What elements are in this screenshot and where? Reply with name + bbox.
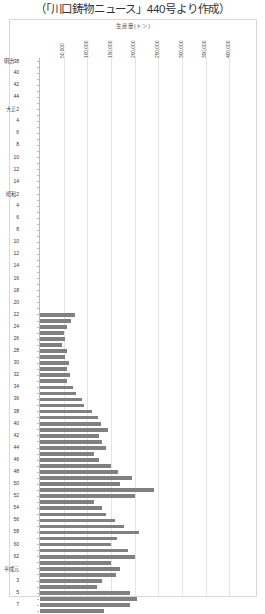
y-tick-label: 12	[0, 250, 19, 256]
y-tick-label: 8	[0, 226, 19, 232]
y-tick-label: 平成元	[0, 565, 19, 572]
y-tick-label: 54	[0, 504, 19, 510]
bar	[40, 452, 94, 456]
bar	[40, 446, 106, 450]
bar	[40, 567, 120, 571]
y-tick-mark	[37, 587, 39, 588]
bar	[40, 579, 102, 583]
y-tick-label: 34	[0, 383, 19, 389]
y-tick-mark	[37, 121, 39, 122]
y-tick-mark	[37, 363, 39, 364]
y-tick-mark	[37, 187, 39, 188]
y-tick-label: 8	[0, 141, 19, 147]
bar	[40, 500, 94, 504]
y-tick-mark	[37, 345, 39, 346]
y-tick-mark	[37, 200, 39, 201]
bar	[40, 319, 71, 323]
bar	[40, 513, 106, 517]
y-tick-mark	[37, 496, 39, 497]
y-tick-mark	[37, 544, 39, 545]
x-tick-label: 300,000	[178, 41, 184, 58]
y-tick-mark	[37, 133, 39, 134]
y-tick-mark	[37, 175, 39, 176]
y-tick-mark	[37, 296, 39, 297]
bar	[40, 458, 99, 462]
y-tick-mark	[37, 97, 39, 98]
bar	[40, 488, 154, 492]
bar	[40, 519, 115, 523]
y-tick-mark	[37, 85, 39, 86]
y-tick-mark	[37, 611, 39, 612]
x-tick-label: 100,000	[83, 41, 89, 58]
bar	[40, 367, 67, 371]
y-tick-mark	[37, 423, 39, 424]
y-tick-mark	[37, 103, 39, 104]
bar	[40, 331, 64, 335]
y-tick-mark	[37, 502, 39, 503]
y-tick-mark	[37, 562, 39, 563]
y-tick-mark	[37, 290, 39, 291]
y-tick-mark	[37, 381, 39, 382]
x-axis-title: 生産量(トン)	[10, 22, 256, 30]
y-tick-mark	[37, 429, 39, 430]
bar	[40, 470, 118, 474]
y-tick-mark	[37, 109, 39, 110]
y-tick-mark	[37, 532, 39, 533]
y-tick-mark	[37, 230, 39, 231]
y-tick-mark	[37, 339, 39, 340]
y-tick-mark	[37, 466, 39, 467]
y-tick-mark	[37, 514, 39, 515]
bar	[40, 440, 102, 444]
bar-rows: 明治38404244大正2468101214昭和2468101214161820…	[10, 58, 256, 596]
bar	[40, 525, 124, 529]
y-tick-mark	[37, 405, 39, 406]
bar	[40, 386, 73, 390]
y-tick-label: 3	[0, 577, 19, 583]
y-tick-mark	[37, 151, 39, 152]
y-tick-mark	[37, 484, 39, 485]
y-tick-mark	[37, 556, 39, 557]
x-tick-label: 50,000	[59, 43, 65, 58]
bar	[40, 355, 65, 359]
bar	[40, 543, 111, 547]
y-tick-label: 32	[0, 371, 19, 377]
y-tick-mark	[37, 490, 39, 491]
y-tick-mark	[37, 448, 39, 449]
y-tick-mark	[37, 369, 39, 370]
bar	[40, 561, 111, 565]
y-tick-mark	[37, 351, 39, 352]
y-tick-label: 6	[0, 129, 19, 135]
bar	[40, 325, 67, 329]
y-tick-mark	[37, 242, 39, 243]
y-tick-mark	[37, 218, 39, 219]
y-tick-mark	[37, 212, 39, 213]
y-tick-label: 大正2	[0, 105, 19, 112]
y-tick-label: 42	[0, 81, 19, 87]
y-tick-mark	[37, 454, 39, 455]
y-tick-mark	[37, 272, 39, 273]
bar	[40, 422, 101, 426]
y-tick-mark	[37, 254, 39, 255]
y-tick-label: 42	[0, 432, 19, 438]
bar-row	[10, 608, 256, 614]
y-tick-mark	[37, 411, 39, 412]
y-tick-mark	[37, 435, 39, 436]
y-tick-mark	[37, 314, 39, 315]
bar	[40, 597, 137, 601]
y-tick-mark	[37, 574, 39, 575]
y-tick-mark	[37, 333, 39, 334]
bar	[40, 416, 98, 420]
bar	[40, 555, 135, 559]
y-tick-mark	[37, 194, 39, 195]
y-tick-mark	[37, 260, 39, 261]
bar	[40, 585, 97, 589]
y-tick-mark	[37, 206, 39, 207]
y-tick-mark	[37, 61, 39, 62]
y-tick-mark	[37, 67, 39, 68]
bar	[40, 428, 108, 432]
y-tick-mark	[37, 593, 39, 594]
y-tick-label: 44	[0, 444, 19, 450]
y-tick-label: 36	[0, 395, 19, 401]
bar	[40, 398, 82, 402]
y-tick-mark	[37, 605, 39, 606]
